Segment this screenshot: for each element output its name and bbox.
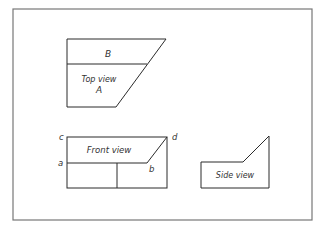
top-view-outline	[67, 39, 166, 107]
corner-label-d: d	[172, 132, 178, 142]
front-view: Front view c d a b	[58, 132, 178, 188]
front-view-slope-bd	[147, 137, 167, 163]
top-view-title: Top view	[82, 75, 117, 84]
side-view: Side view	[201, 136, 269, 188]
side-view-title: Side view	[216, 171, 255, 180]
region-label-b: B	[105, 49, 111, 59]
side-view-outline	[201, 136, 269, 188]
region-label-a: A	[95, 85, 102, 95]
corner-label-b: b	[149, 164, 154, 174]
front-view-title: Front view	[87, 145, 132, 155]
orthographic-drawing: B Top view A Front view c d a b Side vie…	[0, 0, 324, 228]
corner-label-c: c	[59, 132, 64, 142]
top-view: B Top view A	[67, 39, 166, 107]
corner-label-a: a	[58, 158, 63, 168]
